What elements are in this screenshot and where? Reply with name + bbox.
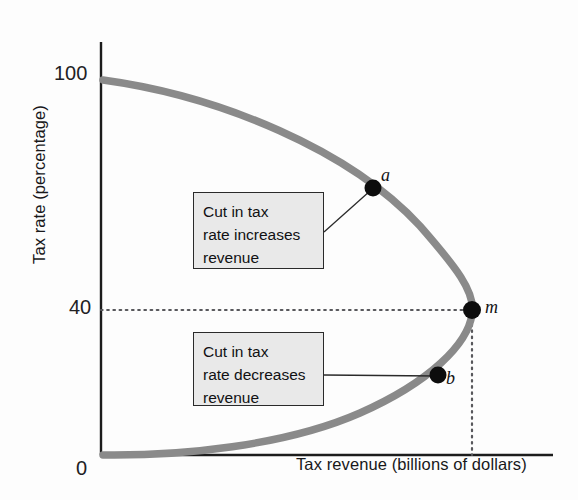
origin-label: 0 — [76, 457, 87, 480]
callout-increase-line-2: rate increases — [203, 223, 314, 246]
y-tick-label-40: 40 — [69, 296, 91, 319]
callout-decrease-line-3: revenue — [203, 386, 314, 409]
data-point-label-b: b — [446, 368, 455, 389]
x-axis-title: Tax revenue (billions of dollars) — [296, 455, 527, 474]
callout-decrease-line-2: rate decreases — [203, 363, 314, 386]
callout-cut-increases-revenue: Cut in tax rate increases revenue — [193, 192, 324, 269]
callout-increase-line-1: Cut in tax — [203, 200, 314, 223]
data-point-a — [365, 180, 382, 197]
y-axis-title: Tax rate (percentage) — [30, 80, 49, 290]
data-point-label-a: a — [381, 165, 390, 186]
callout-increase-line-3: revenue — [203, 246, 314, 269]
callout-cut-decreases-revenue: Cut in tax rate decreases revenue — [193, 332, 324, 406]
callout-decrease-line-1: Cut in tax — [203, 340, 314, 363]
laffer-curve-figure: Tax rate (percentage) Tax revenue (billi… — [0, 0, 578, 500]
data-point-b — [430, 367, 447, 384]
data-point-m — [463, 301, 481, 319]
data-point-label-m: m — [485, 297, 498, 318]
y-tick-label-100: 100 — [54, 62, 87, 85]
